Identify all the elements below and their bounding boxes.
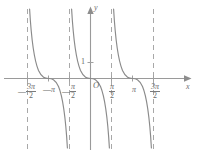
origin-label: O: [93, 81, 99, 90]
tangent-function-figure: y x O 1 —3π2 —π —π2 π2 π 3π2: [0, 0, 200, 153]
tick-label-neg-pi-over-two: —π2: [62, 83, 76, 101]
fraction-three-pi-over-two: 3π2: [26, 83, 36, 101]
tick-label-neg-three-pi-over-two: —3π2: [18, 83, 36, 101]
y-unit-label: 1: [81, 58, 85, 66]
x-axis-label: x: [186, 83, 190, 91]
fraction-denominator: 2: [150, 92, 160, 100]
tick-label-pi-over-two: π2: [109, 83, 115, 101]
tick-label-pi: π: [132, 86, 136, 94]
fraction-pi-over-two: π2: [70, 83, 76, 101]
plot-canvas: [0, 0, 200, 153]
fraction-denominator: 2: [109, 92, 115, 100]
pi-symbol: π: [132, 86, 136, 94]
y-axis-arrowhead: [87, 7, 93, 15]
fraction-denominator: 2: [26, 92, 36, 100]
fraction-three-pi-over-two: 3π2: [150, 83, 160, 101]
minus-sign: —: [62, 88, 70, 96]
y-axis-label: y: [94, 4, 98, 12]
minus-sign: —: [18, 88, 26, 96]
pi-symbol: π: [51, 86, 55, 94]
tick-label-neg-pi: —π: [43, 86, 55, 94]
x-axis-arrowhead: [184, 75, 192, 81]
tick-label-three-pi-over-two: 3π2: [150, 83, 160, 101]
minus-sign: —: [43, 86, 51, 94]
fraction-pi-over-two: π2: [109, 83, 115, 101]
fraction-denominator: 2: [70, 92, 76, 100]
